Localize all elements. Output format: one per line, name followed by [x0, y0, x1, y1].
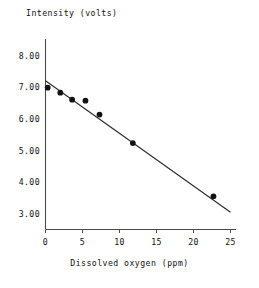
y-tick-label: 4.00 [19, 177, 40, 187]
x-tick-label: 25 [225, 237, 236, 247]
data-point [130, 140, 136, 146]
data-point-group [45, 85, 217, 200]
data-point [83, 98, 89, 104]
x-tick-labels: 0 5 10 15 20 25 [43, 237, 236, 247]
y-tick-label: 3.00 [19, 209, 40, 219]
x-tick-label: 20 [188, 237, 199, 247]
chart-figure: Intensity (volts) 8.00 7.00 6.00 5.00 4.… [0, 0, 259, 288]
data-point [57, 90, 63, 96]
data-point [45, 85, 51, 91]
plot-area: 8.00 7.00 6.00 5.00 4.00 3.00 0 5 10 15 … [0, 0, 259, 288]
y-tick-label: 7.00 [19, 82, 40, 92]
y-tick-label: 5.00 [19, 146, 40, 156]
data-point [97, 112, 103, 118]
y-tick-labels: 8.00 7.00 6.00 5.00 4.00 3.00 [19, 51, 40, 220]
x-tick-label: 5 [80, 237, 85, 247]
x-axis-title: Dissolved oxygen (ppm) [0, 258, 259, 268]
y-tick-label: 6.00 [19, 114, 40, 124]
x-tick-label: 10 [114, 237, 125, 247]
x-tick-label: 0 [43, 237, 48, 247]
data-point [69, 97, 75, 103]
data-point [211, 193, 217, 199]
y-tick-label: 8.00 [19, 51, 40, 61]
x-tick-label: 15 [151, 237, 162, 247]
